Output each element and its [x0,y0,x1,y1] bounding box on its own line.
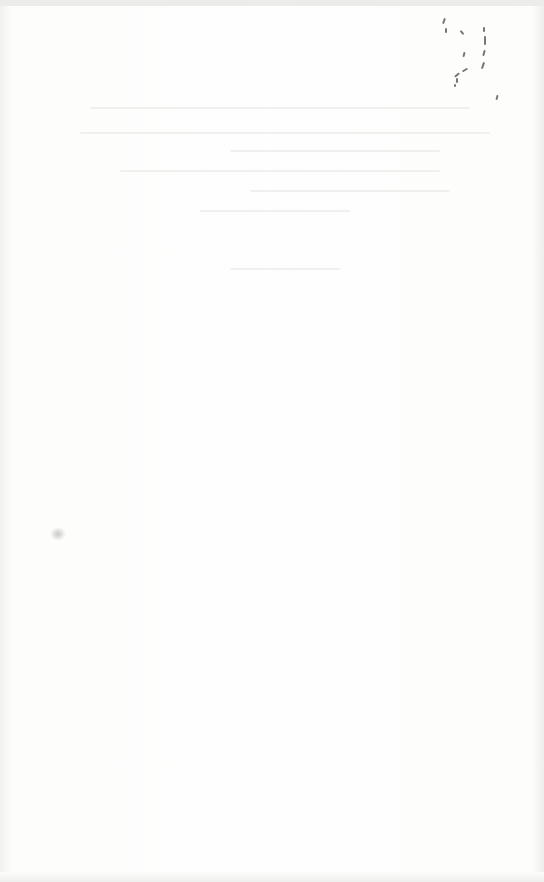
scan-edge-bottom [0,872,544,882]
smudge [50,527,66,541]
scan-edge-top [0,0,544,6]
document-page [0,0,544,882]
